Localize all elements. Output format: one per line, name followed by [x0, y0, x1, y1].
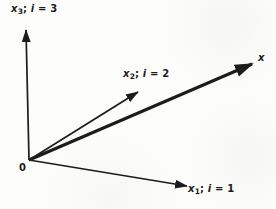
x2-var: x [123, 68, 130, 79]
x3-axis-label: x3; i = 3 [11, 4, 58, 16]
x2-axis-label: x2; i = 2 [123, 69, 170, 81]
diagram-canvas [0, 0, 276, 209]
x3-equals: = [34, 3, 50, 14]
x1-axis-label: x1; i = 1 [188, 184, 235, 196]
x2-separator: ; [135, 68, 143, 79]
x1-equals: = [211, 183, 227, 194]
origin-label: 0 [19, 163, 26, 173]
vector-coordinate-diagram: x3; i = 3 x2; i = 2 x1; i = 1 x 0 [0, 0, 276, 209]
x3-index-value: 3 [50, 3, 57, 14]
x-vector-label: x [258, 53, 265, 63]
x1-index-value: 1 [227, 183, 234, 194]
x-vector-var: x [258, 52, 265, 63]
x2-equals: = [146, 68, 162, 79]
x1-var: x [188, 183, 195, 194]
x1-separator: ; [200, 183, 208, 194]
x1-axis-line [29, 160, 187, 186]
x2-axis-line [29, 92, 138, 160]
x3-var: x [11, 3, 18, 14]
x3-separator: ; [23, 3, 31, 14]
x2-index-value: 2 [162, 68, 169, 79]
x3-axis-line [26, 30, 29, 160]
origin-value: 0 [19, 162, 26, 173]
